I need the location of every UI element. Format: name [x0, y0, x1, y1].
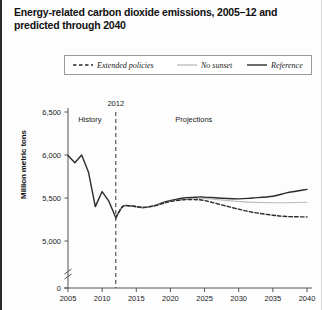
x-axis-ticks: 20052010201520202025203020352040 — [60, 288, 316, 303]
svg-text:2030: 2030 — [230, 294, 247, 303]
svg-text:6,000: 6,000 — [42, 151, 61, 160]
svg-text:5,000: 5,000 — [42, 237, 61, 246]
svg-text:2035: 2035 — [265, 294, 282, 303]
series-line-history — [68, 155, 116, 218]
svg-text:5,500: 5,500 — [42, 194, 61, 203]
svg-text:2010: 2010 — [94, 294, 111, 303]
annotation-history: History — [78, 115, 102, 124]
svg-text:2015: 2015 — [128, 294, 145, 303]
y-axis-ticks: 05,0005,5006,0006,500 — [42, 108, 68, 293]
annotation-divider-year: 2012 — [107, 99, 124, 108]
svg-text:2020: 2020 — [162, 294, 179, 303]
plot-annotations: 2012HistoryProjections — [78, 99, 212, 124]
svg-text:6,500: 6,500 — [42, 108, 61, 117]
data-series-group — [68, 155, 307, 218]
svg-text:2005: 2005 — [60, 294, 77, 303]
series-line-reference — [116, 189, 307, 217]
svg-text:0: 0 — [57, 284, 61, 293]
chart-figure: Energy-related carbon dioxide emissions,… — [0, 0, 322, 310]
plot-area: 05,0005,5006,0006,500 200520102015202020… — [2, 0, 322, 310]
svg-text:2025: 2025 — [196, 294, 213, 303]
svg-text:2040: 2040 — [299, 294, 316, 303]
annotation-projections: Projections — [175, 115, 212, 124]
